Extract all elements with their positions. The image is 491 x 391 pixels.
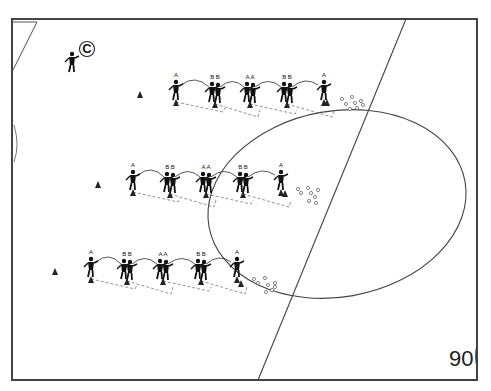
ball-icon <box>307 199 310 202</box>
pass-arc <box>138 170 164 177</box>
ball-icon <box>252 277 255 280</box>
ball-icon <box>263 276 266 279</box>
run-path <box>163 281 211 291</box>
player-figure <box>126 170 140 190</box>
cone-icon <box>52 268 58 275</box>
ball-icon <box>273 285 276 288</box>
player-label: B B <box>238 164 248 170</box>
player-label: B B <box>210 74 220 80</box>
coach-figure <box>65 52 79 72</box>
ball-icon <box>316 188 319 191</box>
player-label: A A <box>201 164 210 170</box>
ball-icon <box>299 191 302 194</box>
cone-icon <box>137 91 143 98</box>
cone-icon <box>95 181 101 188</box>
ball-icon <box>313 195 316 198</box>
player-label: A <box>279 162 283 168</box>
pass-arc <box>175 172 200 178</box>
pass-arc <box>220 82 244 88</box>
run-path <box>91 279 137 289</box>
player-label: A <box>235 249 239 255</box>
player-label: B B <box>282 74 292 80</box>
coach-label: C <box>82 41 92 56</box>
ball-icon <box>314 201 317 204</box>
ball-icon <box>361 103 364 106</box>
player-label: A A <box>245 74 254 80</box>
pass-arc <box>132 259 157 265</box>
drill-rows: AB BA AB BAAB BA AB BAAB BA AB BA <box>84 72 365 294</box>
player-label: B B <box>196 251 206 257</box>
pass-arc <box>96 257 121 264</box>
ball-icon <box>270 288 273 291</box>
player-figure <box>84 257 98 277</box>
page-number: 90 <box>449 346 473 372</box>
player-label: B B <box>122 251 132 257</box>
row-bottom: AB BA AB BA <box>84 249 277 294</box>
ball-icon <box>344 102 347 105</box>
cones <box>52 91 143 275</box>
player-figure <box>169 80 183 100</box>
pass-arc <box>292 81 318 87</box>
pass-arc <box>181 80 209 87</box>
training-field-diagram: C AB BA AB BAAB BA AB BAAB BA AB BA <box>0 0 491 391</box>
ball-icon <box>309 191 312 194</box>
ball-icon <box>350 95 353 98</box>
ball-icon <box>306 186 309 189</box>
ball-icon <box>264 290 267 293</box>
ball-icon <box>273 281 276 284</box>
run-path <box>215 104 260 117</box>
player-label: A <box>89 249 93 255</box>
player-label: A <box>322 72 326 78</box>
coach: C <box>65 41 95 72</box>
ball-icon <box>348 107 351 110</box>
ball-icon <box>359 99 362 102</box>
run-path <box>206 194 253 204</box>
ball-icon <box>340 97 343 100</box>
player-label: A <box>131 162 135 168</box>
ball-icon <box>266 283 269 286</box>
ball-icon <box>353 101 356 104</box>
player-figure <box>274 170 288 190</box>
ball-icon <box>256 281 259 284</box>
run-path <box>250 104 297 114</box>
corner-wedge-line <box>12 22 37 72</box>
run-path <box>133 192 180 202</box>
pass-arc <box>168 259 195 265</box>
pass-arc <box>255 82 281 88</box>
diagonal-line <box>258 19 406 380</box>
ball-icon <box>355 106 358 109</box>
run-path <box>127 281 173 294</box>
pass-arc <box>248 171 275 177</box>
player-label: B B <box>165 164 175 170</box>
player-figure <box>317 80 331 100</box>
row-middle: AB BA AB BA <box>126 162 320 207</box>
ball-icon <box>296 187 299 190</box>
run-path <box>176 102 225 112</box>
pass-arc <box>211 172 237 178</box>
player-label: A A <box>158 251 167 257</box>
left-arc <box>14 125 17 162</box>
player-label: A <box>174 72 178 78</box>
zone-ellipse <box>193 90 481 318</box>
